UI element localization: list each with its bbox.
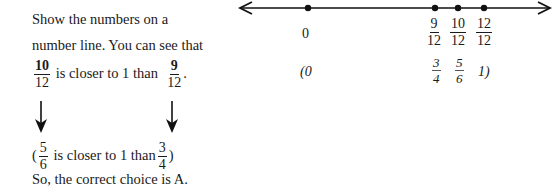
number-line — [0, 0, 557, 40]
point-twelve-twelfths — [481, 5, 487, 11]
fraction-ten-twelfths: 10 12 — [34, 59, 50, 90]
label-twelve-twelfths: 12 12 — [476, 17, 492, 48]
equivalent-one: 1) — [478, 64, 490, 80]
equivalent-five-sixths: 5 6 — [455, 56, 464, 85]
down-arrow-icon — [165, 101, 179, 133]
label-zero: 0 — [302, 26, 309, 42]
fraction-three-fourths: 3 4 — [158, 141, 167, 172]
fraction-five-sixths: 5 6 — [39, 141, 48, 172]
comparison-statement-simplified: ( 5 6 is closer to 1 than 3 4 ) — [32, 141, 174, 172]
point-nine-twelfths — [432, 5, 438, 11]
equivalent-zero: (0 — [300, 64, 312, 80]
down-arrow-icon — [34, 101, 48, 133]
point-ten-twelfths — [455, 5, 461, 11]
equivalent-three-fourths: 3 4 — [432, 56, 441, 85]
label-nine-twelfths: 9 12 — [427, 17, 441, 48]
comparison-statement-twelfths: 10 12 is closer to 1 than 9 12 . — [32, 59, 187, 90]
point-zero — [305, 5, 311, 11]
conclusion: So, the correct choice is A. — [32, 171, 188, 188]
comparison-text: is closer to 1 than — [53, 147, 155, 163]
label-ten-twelfths: 10 12 — [450, 17, 466, 48]
fraction-nine-twelfths: 9 12 — [167, 59, 181, 90]
comparison-text: is closer to 1 than — [56, 65, 158, 81]
